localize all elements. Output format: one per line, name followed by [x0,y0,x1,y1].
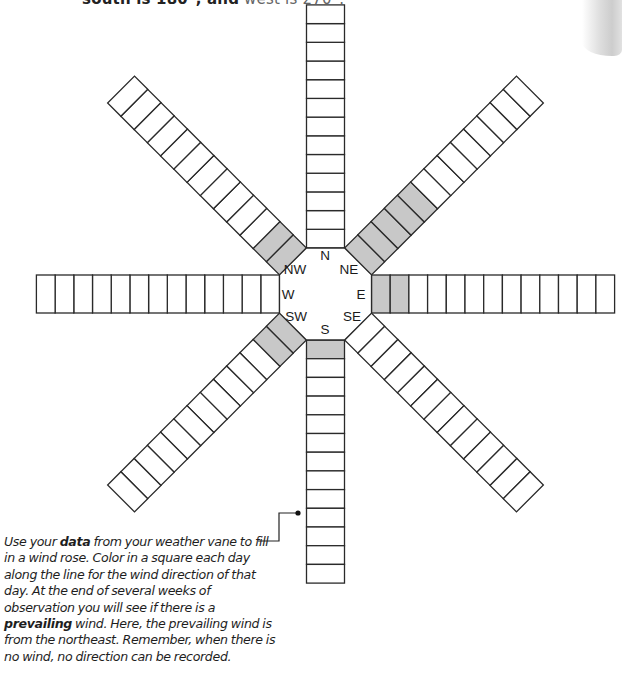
cell-empty[interactable] [540,275,559,313]
label-ne: NE [340,262,359,277]
cell-empty[interactable] [577,275,596,313]
cell-empty[interactable] [307,98,345,117]
arm-nw [108,76,307,275]
cell-empty[interactable] [261,275,280,313]
arm-ne [345,76,544,275]
cell-empty[interactable] [307,24,345,43]
cell-empty[interactable] [307,155,345,174]
cell-empty[interactable] [465,275,484,313]
cell-empty[interactable] [111,275,130,313]
cell-empty[interactable] [307,5,345,24]
caption-bold-data: data [60,534,91,549]
cell-empty[interactable] [502,275,521,313]
caption-part: Use your [4,534,60,549]
cell-empty[interactable] [307,434,345,453]
arm-s [307,340,345,583]
cell-empty[interactable] [307,192,345,211]
cell-empty[interactable] [307,61,345,80]
cell-empty[interactable] [130,275,149,313]
cell-empty[interactable] [205,275,224,313]
cell-empty[interactable] [307,490,345,509]
arm-se [345,313,544,512]
cell-empty[interactable] [307,564,345,583]
cell-empty[interactable] [559,275,578,313]
cell-empty[interactable] [307,396,345,415]
cell-empty[interactable] [307,527,345,546]
cell-empty[interactable] [307,173,345,192]
cell-empty[interactable] [74,275,93,313]
label-se: SE [343,309,361,324]
label-sw: SW [285,309,307,324]
arm-sw [108,313,307,512]
cell-empty[interactable] [186,275,205,313]
cell-empty[interactable] [307,546,345,565]
cell-empty[interactable] [149,275,168,313]
cell-empty[interactable] [521,275,540,313]
cell-empty[interactable] [307,452,345,471]
arm-w [36,275,279,313]
cell-empty[interactable] [167,275,186,313]
cell-empty[interactable] [307,415,345,434]
cell-empty[interactable] [484,275,503,313]
arm-e [372,275,615,313]
cell-empty[interactable] [307,377,345,396]
cell-shaded[interactable] [372,275,391,313]
cell-empty[interactable] [55,275,74,313]
cell-empty[interactable] [307,211,345,230]
cell-empty[interactable] [307,359,345,378]
arm-n [307,5,345,248]
label-e: E [356,287,365,302]
cell-empty[interactable] [307,229,345,248]
leader-dot [295,510,300,515]
cell-empty[interactable] [242,275,261,313]
cell-empty[interactable] [36,275,55,313]
cell-empty[interactable] [307,42,345,61]
label-n: N [320,248,330,263]
caption-bold-prevailing: prevailing [4,616,72,631]
cell-empty[interactable] [428,275,447,313]
cell-empty[interactable] [409,275,428,313]
cell-empty[interactable] [93,275,112,313]
cell-empty[interactable] [307,136,345,155]
cell-empty[interactable] [596,275,615,313]
cell-empty[interactable] [307,117,345,136]
cell-empty[interactable] [446,275,465,313]
cell-shaded[interactable] [390,275,409,313]
cell-empty[interactable] [307,508,345,527]
cell-shaded[interactable] [307,340,345,359]
label-w: W [282,287,295,302]
cell-empty[interactable] [223,275,242,313]
caption-text: Use your data from your weather vane to … [4,534,279,665]
label-s: S [320,322,329,337]
label-nw: NW [284,262,307,277]
cell-empty[interactable] [307,80,345,99]
cell-empty[interactable] [307,471,345,490]
